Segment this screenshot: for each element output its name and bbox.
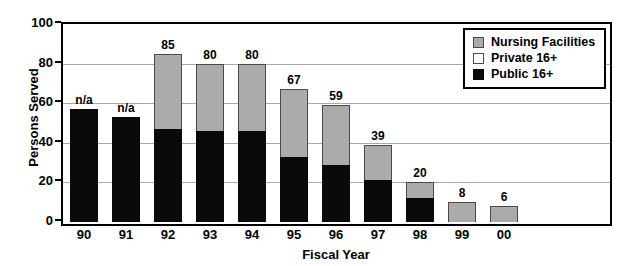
bar-group[interactable] [105,24,147,222]
bar-stack[interactable] [280,89,308,222]
bar-value-label: 67 [273,74,315,86]
legend-item[interactable]: Private 16+ [473,51,598,66]
y-tick-label: 40 [8,135,53,148]
bar-value-label: 39 [357,130,399,142]
x-tick-label: 97 [357,228,399,241]
bar-group[interactable] [63,24,105,222]
bar-value-label: 80 [231,49,273,61]
x-axis-ticks: 9091929394959697989900 [63,228,606,246]
bar-value-label: 20 [399,167,441,179]
bar-segment-public-16plus[interactable] [70,109,98,222]
bar-value-label: n/a [105,102,147,114]
legend-label: Public 16+ [491,68,553,81]
y-tick-label: 60 [8,95,53,108]
bar-segment-public-16plus[interactable] [364,180,392,222]
bar-stack[interactable] [112,117,140,222]
x-tick-label: 96 [315,228,357,241]
x-tick-label: 91 [105,228,147,241]
bar-segment-public-16plus[interactable] [238,131,266,222]
bar-value-label: 80 [189,49,231,61]
x-tick-label: 00 [483,228,525,241]
bar-value-label: 8 [441,187,483,199]
bar-value-label: 6 [483,191,525,203]
x-tick-label: 95 [273,228,315,241]
y-tick-label: 80 [8,56,53,69]
legend-swatch-nursing [473,37,484,48]
y-tick-label: 100 [8,16,53,29]
bar-segment-public-16plus[interactable] [406,198,434,222]
bar-value-label: n/a [63,94,105,106]
bar-stack[interactable] [490,206,518,222]
stacked-bar-chart: Persons Served 100806040200 n/an/a858080… [0,0,624,266]
bar-segment-nursing-facilities[interactable] [322,105,350,164]
bar-group[interactable] [147,24,189,222]
bar-stack[interactable] [322,105,350,222]
bar-segment-nursing-facilities[interactable] [364,145,392,181]
bar-segment-public-16plus[interactable] [154,129,182,222]
bar-segment-nursing-facilities[interactable] [154,54,182,129]
legend-item[interactable]: Public 16+ [473,67,598,82]
x-tick-label: 90 [63,228,105,241]
bar-stack[interactable] [448,202,476,222]
legend-swatch-public [473,69,484,80]
x-tick-label: 93 [189,228,231,241]
x-tick-label: 92 [147,228,189,241]
bar-segment-nursing-facilities[interactable] [406,182,434,198]
bar-segment-nursing-facilities[interactable] [196,64,224,131]
bar-group[interactable] [399,24,441,222]
bar-segment-nursing-facilities[interactable] [280,89,308,156]
legend-label: Nursing Facilities [491,36,595,49]
bar-segment-public-16plus[interactable] [196,131,224,222]
bar-stack[interactable] [154,54,182,222]
x-axis-title: Fiscal Year [0,247,624,262]
bar-stack[interactable] [406,182,434,222]
legend-swatch-private [473,53,484,64]
bar-segment-nursing-facilities[interactable] [238,64,266,131]
y-tick-label: 20 [8,174,53,187]
bar-group[interactable] [273,24,315,222]
x-tick-label: 94 [231,228,273,241]
bar-group[interactable] [315,24,357,222]
bar-segment-public-16plus[interactable] [280,157,308,222]
chart-legend: Nursing FacilitiesPrivate 16+Public 16+ [463,28,606,89]
bar-segment-public-16plus[interactable] [112,117,140,222]
legend-label: Private 16+ [491,52,557,65]
bar-stack[interactable] [70,109,98,222]
bar-stack[interactable] [238,64,266,222]
bar-stack[interactable] [196,64,224,222]
bar-segment-nursing-facilities[interactable] [448,202,476,222]
legend-item[interactable]: Nursing Facilities [473,35,598,50]
y-tick-label: 0 [8,214,53,227]
bar-stack[interactable] [364,145,392,222]
x-tick-label: 98 [399,228,441,241]
bar-value-label: 85 [147,39,189,51]
x-tick-label: 99 [441,228,483,241]
bar-value-label: 59 [315,90,357,102]
bar-group[interactable] [357,24,399,222]
bar-segment-nursing-facilities[interactable] [490,206,518,222]
bar-segment-public-16plus[interactable] [322,165,350,222]
